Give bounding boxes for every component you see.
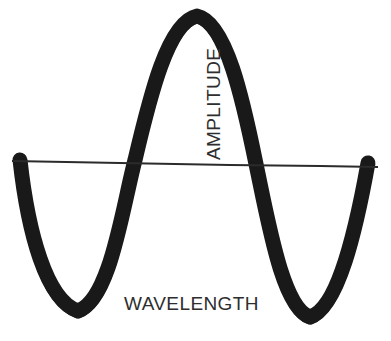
baseline-axis [12, 161, 378, 167]
wave-diagram: AMPLITUDE WAVELENGTH [0, 0, 391, 341]
wavelength-label: WAVELENGTH [124, 294, 259, 313]
wave-curve-texture [20, 17, 368, 318]
amplitude-label: AMPLITUDE [204, 48, 223, 160]
wave-graphic [0, 0, 391, 341]
